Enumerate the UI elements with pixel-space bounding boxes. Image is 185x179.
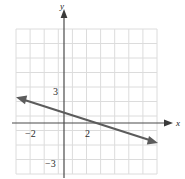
x-axis-label: x: [175, 118, 180, 128]
line-right-arrowhead: [147, 136, 158, 145]
x-tick-label-negative-2: −2: [25, 128, 36, 139]
y-tick-label-negative-3: −3: [45, 158, 56, 169]
y-tick-label-3: 3: [53, 86, 58, 97]
x-axis-arrowhead: [164, 120, 173, 127]
x-axis: [12, 120, 173, 127]
coordinate-plane-graph: x y −2 2 3 −3: [0, 0, 185, 179]
graph-screenshot: x y −2 2 3 −3: [0, 0, 185, 179]
grid-lines: [16, 29, 157, 174]
y-axis-label: y: [59, 1, 64, 11]
x-tick-label-2: 2: [85, 128, 90, 139]
y-axis: [61, 9, 68, 178]
line-left-arrowhead: [16, 96, 27, 105]
